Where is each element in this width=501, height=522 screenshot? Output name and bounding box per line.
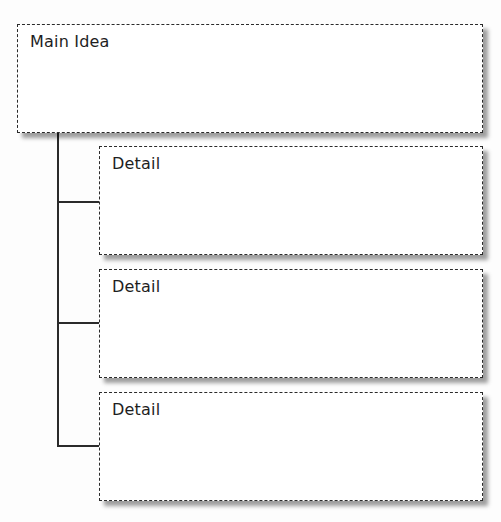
branch-connector-line-1: [57, 201, 99, 203]
detail-label-1: Detail: [112, 154, 160, 173]
branch-connector-line-3: [57, 445, 99, 447]
detail-box-1[interactable]: Detail: [99, 146, 483, 255]
detail-label-3: Detail: [112, 400, 160, 419]
detail-box-2[interactable]: Detail: [99, 269, 483, 378]
main-idea-box[interactable]: Main Idea: [17, 24, 483, 133]
trunk-connector-line: [57, 133, 59, 446]
detail-box-3[interactable]: Detail: [99, 392, 483, 501]
branch-connector-line-2: [57, 322, 99, 324]
detail-label-2: Detail: [112, 277, 160, 296]
main-idea-label: Main Idea: [30, 32, 110, 51]
